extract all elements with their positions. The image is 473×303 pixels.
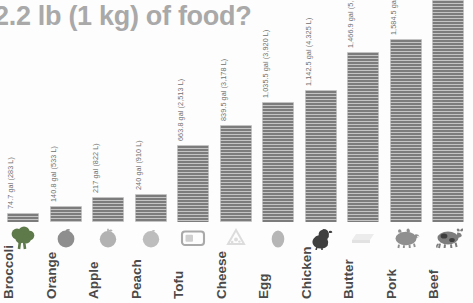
category-label-pork: Pork <box>384 269 399 299</box>
tofu-icon <box>178 225 208 251</box>
beef-icon <box>433 225 463 251</box>
value-label-chicken: 1,142.5 gal (4,325 L) <box>304 18 313 86</box>
category-label-butter: Butter <box>341 259 356 299</box>
bar-group-peach: 240 gal (910 L)Peach <box>130 0 172 303</box>
bar-butter[interactable] <box>348 52 379 222</box>
bar-group-pork: 1,584.5 gal (5,998 L)Pork <box>385 0 427 303</box>
value-label-pork: 1,584.5 gal (5,998 L) <box>389 0 398 35</box>
category-label-orange: Orange <box>44 252 59 299</box>
value-label-peach: 240 gal (910 L) <box>134 140 143 190</box>
bar-cheese[interactable] <box>220 125 251 222</box>
bar-beef[interactable] <box>433 0 464 222</box>
bar-broccoli[interactable] <box>8 213 39 222</box>
value-label-egg: 1,035.5 gal (3,920 L) <box>261 30 270 98</box>
value-label-tofu: 663.8 gal (2,513 L) <box>176 79 185 141</box>
category-label-beef: Beef <box>426 270 441 299</box>
category-label-apple: Apple <box>86 261 101 299</box>
orange-icon <box>51 225 81 251</box>
apple-icon <box>93 225 123 251</box>
bar-group-broccoli: 74.7 gal (283 L)Broccoli <box>2 0 44 303</box>
bar-peach[interactable] <box>135 194 166 222</box>
bar-group-beef: Beef <box>427 0 469 303</box>
value-label-broccoli: 74.7 gal (283 L) <box>6 157 15 209</box>
bar-tofu[interactable] <box>178 145 209 222</box>
bar-orange[interactable] <box>50 206 81 222</box>
pork-icon <box>391 225 421 251</box>
bar-group-cheese: 839.5 gal (3,178 L)Cheese <box>215 0 257 303</box>
bar-pork[interactable] <box>390 39 421 222</box>
bar-group-egg: 1,035.5 gal (3,920 L)Egg <box>257 0 299 303</box>
category-label-chicken: Chicken <box>299 246 314 299</box>
bar-group-tofu: 663.8 gal (2,513 L)Tofu <box>172 0 214 303</box>
value-label-orange: 140.8 gal (533 L) <box>49 146 58 202</box>
bar-group-orange: 140.8 gal (533 L)Orange <box>45 0 87 303</box>
bar-chicken[interactable] <box>305 90 336 222</box>
peach-icon <box>136 225 166 251</box>
bar-group-butter: 1,466.9 gal (5,553 L)Butter <box>342 0 384 303</box>
bar-apple[interactable] <box>93 197 124 222</box>
water-footprint-chart: 2.2 lb (1 kg) of food? 74.7 gal (283 L)B… <box>0 0 473 303</box>
bar-egg[interactable] <box>263 102 294 222</box>
category-label-egg: Egg <box>256 274 271 300</box>
category-label-cheese: Cheese <box>214 251 229 299</box>
value-label-cheese: 839.5 gal (3,178 L) <box>219 59 228 121</box>
category-label-tofu: Tofu <box>171 271 186 299</box>
category-label-broccoli: Broccoli <box>1 245 16 299</box>
value-label-apple: 217 gal (822 L) <box>91 143 100 193</box>
egg-icon <box>263 225 293 251</box>
bar-group-chicken: 1,142.5 gal (4,325 L)Chicken <box>300 0 342 303</box>
butter-icon <box>348 225 378 251</box>
plot-area: 74.7 gal (283 L)Broccoli140.8 gal (533 L… <box>0 0 473 303</box>
value-label-butter: 1,466.9 gal (5,553 L) <box>346 0 355 48</box>
cheese-icon <box>221 225 251 251</box>
category-label-peach: Peach <box>129 259 144 299</box>
bar-group-apple: 217 gal (822 L)Apple <box>87 0 129 303</box>
